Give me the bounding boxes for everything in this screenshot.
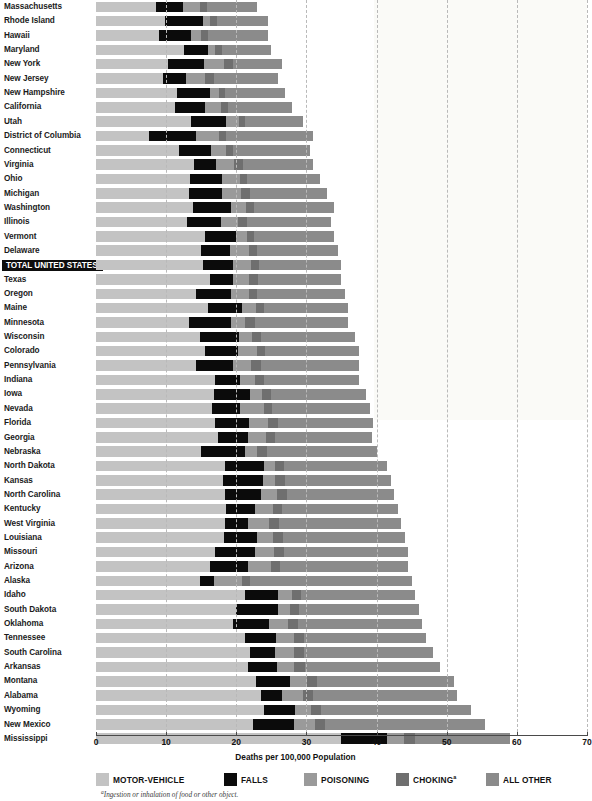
row-label: Iowa bbox=[4, 387, 22, 401]
bar-segment-choke bbox=[245, 317, 255, 328]
stacked-bar bbox=[96, 16, 268, 27]
bar-segment-falls bbox=[168, 59, 204, 70]
bar-segment-choke bbox=[252, 332, 261, 343]
bar-segment-motor bbox=[96, 45, 184, 56]
bar-segment-motor bbox=[96, 2, 156, 13]
stacked-bar bbox=[96, 403, 370, 414]
x-tick-60 bbox=[517, 732, 518, 736]
bar-segment-choke bbox=[294, 647, 304, 658]
bar-segment-motor bbox=[96, 88, 177, 99]
bar-segment-falls bbox=[156, 2, 183, 13]
row-label: Pennsylvania bbox=[4, 359, 56, 373]
bar-segment-other bbox=[287, 489, 394, 500]
gridline-70 bbox=[587, 0, 588, 732]
bar-segment-other bbox=[250, 188, 327, 199]
chart-row: Iowa bbox=[0, 387, 591, 401]
stacked-bar bbox=[96, 188, 327, 199]
row-label: Oregon bbox=[4, 287, 33, 301]
bar-segment-other bbox=[325, 719, 485, 730]
stacked-bar bbox=[96, 2, 257, 13]
row-label: Connecticut bbox=[4, 144, 51, 158]
bar-segment-poison bbox=[261, 489, 277, 500]
legend-item-other[interactable]: ALL OTHER bbox=[486, 770, 552, 786]
chart-row: Virginia bbox=[0, 158, 591, 172]
bar-segment-poison bbox=[245, 446, 258, 457]
bar-segment-choke bbox=[240, 174, 248, 185]
chart-row: New Hampshire bbox=[0, 86, 591, 100]
chart-row: Missouri bbox=[0, 545, 591, 559]
stacked-bar bbox=[96, 159, 313, 170]
legend-item-poison[interactable]: POISONING bbox=[304, 770, 369, 786]
bar-segment-poison bbox=[269, 619, 289, 630]
bar-segment-choke bbox=[246, 202, 254, 213]
row-label: Nebraska bbox=[4, 445, 40, 459]
row-label: California bbox=[4, 100, 41, 114]
bar-segment-motor bbox=[96, 547, 215, 558]
bar-segment-choke bbox=[288, 619, 298, 630]
bar-segment-other bbox=[304, 633, 425, 644]
bar-segment-choke bbox=[274, 547, 284, 558]
bar-segment-other bbox=[265, 346, 359, 357]
bar-segment-motor bbox=[96, 461, 225, 472]
stacked-bar bbox=[96, 30, 268, 41]
chart-row: Arizona bbox=[0, 560, 591, 574]
chart-row: California bbox=[0, 100, 591, 114]
chart-row: Wyoming bbox=[0, 703, 591, 717]
bar-segment-other bbox=[255, 317, 348, 328]
chart-row: Illinois bbox=[0, 215, 591, 229]
bar-segment-other bbox=[284, 461, 387, 472]
bar-segment-falls bbox=[189, 317, 232, 328]
bar-segment-other bbox=[250, 576, 411, 587]
chart-row: Wisconsin bbox=[0, 330, 591, 344]
stacked-bar bbox=[96, 518, 401, 529]
bar-segment-choke bbox=[307, 676, 317, 687]
bar-segment-motor bbox=[96, 202, 193, 213]
bar-segment-falls bbox=[191, 116, 226, 127]
legend-item-falls[interactable]: FALLS bbox=[224, 770, 268, 786]
bar-segment-choke bbox=[275, 475, 285, 486]
chart-row: Connecticut bbox=[0, 144, 591, 158]
chart-row: New Jersey bbox=[0, 72, 591, 86]
bar-segment-falls bbox=[245, 590, 277, 601]
stacked-bar bbox=[96, 690, 457, 701]
chart-row: Colorado bbox=[0, 344, 591, 358]
bar-segment-motor bbox=[96, 317, 189, 328]
bar-segment-poison bbox=[257, 532, 273, 543]
bar-segment-other bbox=[222, 45, 271, 56]
bar-segment-motor bbox=[96, 159, 194, 170]
stacked-bar bbox=[96, 375, 359, 386]
bar-segment-falls bbox=[201, 446, 244, 457]
x-axis-title: Deaths per 100,000 Population bbox=[0, 752, 591, 762]
bar-segment-motor bbox=[96, 102, 175, 113]
bar-segment-poison bbox=[231, 202, 246, 213]
bar-segment-other bbox=[257, 245, 338, 256]
chart-row: Idaho bbox=[0, 588, 591, 602]
chart-row: Minnesota bbox=[0, 316, 591, 330]
bar-segment-falls bbox=[200, 576, 214, 587]
x-tick-label: 60 bbox=[512, 737, 521, 747]
legend-item-motor[interactable]: MOTOR-VEHICLE bbox=[96, 770, 184, 786]
bar-segment-motor bbox=[96, 346, 205, 357]
gridline-30 bbox=[306, 0, 307, 732]
chart-footnote: aIngestion or inhalation of food or othe… bbox=[101, 789, 238, 799]
stacked-bar bbox=[96, 647, 433, 658]
chart-row: TOTAL UNITED STATES bbox=[0, 258, 591, 272]
row-label: District of Columbia bbox=[4, 129, 81, 143]
row-label: Florida bbox=[4, 416, 31, 430]
bar-segment-choke bbox=[257, 446, 267, 457]
stacked-bar bbox=[96, 317, 348, 328]
bar-segment-falls bbox=[165, 16, 203, 27]
bar-segment-other bbox=[247, 174, 320, 185]
x-tick-50 bbox=[447, 732, 448, 736]
stacked-bar bbox=[96, 245, 338, 256]
stacked-bar bbox=[96, 102, 292, 113]
bar-segment-falls bbox=[225, 489, 261, 500]
bar-segment-falls bbox=[256, 676, 290, 687]
x-tick-label: 50 bbox=[442, 737, 451, 747]
chart-row: Kentucky bbox=[0, 502, 591, 516]
bar-segment-motor bbox=[96, 30, 159, 41]
bar-segment-poison bbox=[250, 389, 261, 400]
stacked-bar bbox=[96, 45, 271, 56]
legend-item-choke[interactable]: CHOKINGa bbox=[396, 770, 456, 786]
bar-segment-other bbox=[217, 16, 268, 27]
